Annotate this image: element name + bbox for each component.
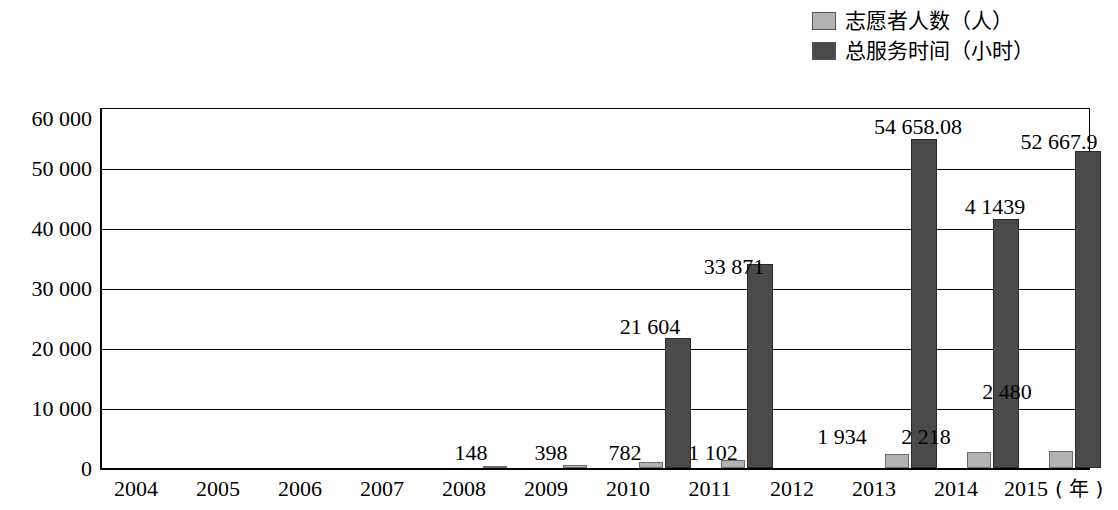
bar-hours-2015 — [1075, 151, 1101, 468]
datalabel-volunteers-2013: 1 934 — [800, 426, 884, 448]
x-axis-tick-2008: 2008 — [423, 478, 505, 500]
legend-item-volunteers: 志愿者人数（人） — [812, 8, 1034, 34]
gridline-30000 — [102, 289, 1089, 290]
gridline-20000 — [102, 229, 1089, 230]
legend-swatch-volunteers — [812, 12, 836, 30]
legend-label-volunteers: 志愿者人数（人） — [845, 11, 1013, 32]
x-axis-tick-2010: 2010 — [587, 478, 669, 500]
x-axis-tick-2011: 2011 — [669, 478, 751, 500]
y-axis-tick-0: 0 — [81, 458, 92, 480]
bar-hours-2013 — [911, 139, 937, 468]
y-axis-tick-50000: 50 000 — [32, 158, 93, 180]
datalabel-volunteers-2010: 782 — [595, 442, 655, 464]
datalabel-hours-2014: 4 1439 — [940, 196, 1050, 218]
y-axis-tick-20000: 20 000 — [32, 338, 93, 360]
legend-swatch-hours — [812, 42, 836, 60]
datalabel-volunteers-2014: 2 218 — [884, 426, 968, 448]
legend-item-hours: 总服务时间（小时） — [812, 38, 1034, 64]
gridline-40000 — [102, 349, 1089, 350]
y-axis-tick-10000: 10 000 — [32, 398, 93, 420]
datalabel-hours-2011: 33 871 — [684, 256, 784, 278]
datalabel-volunteers-2011: 1 102 — [671, 442, 755, 464]
y-axis-tick-30000: 30 000 — [32, 278, 93, 300]
datalabel-hours-2013: 54 658.08 — [843, 116, 993, 138]
bar-volunteers-2015 — [1049, 451, 1073, 468]
x-axis-unit-label: ( 年 ) — [1055, 478, 1103, 500]
chart-legend: 志愿者人数（人） 总服务时间（小时） — [812, 8, 1034, 64]
gridline-10000 — [102, 169, 1089, 170]
bar-volunteers-2013 — [885, 454, 909, 468]
datalabel-volunteers-2009: 398 — [521, 442, 581, 464]
x-axis-tick-2006: 2006 — [259, 478, 341, 500]
bar-volunteers-2014 — [967, 452, 991, 468]
x-axis-tick-2005: 2005 — [177, 478, 259, 500]
legend-label-hours: 总服务时间（小时） — [845, 41, 1034, 62]
gridline-50000 — [102, 409, 1089, 410]
x-axis-tick-2004: 2004 — [95, 478, 177, 500]
bar-volunteers-2008 — [483, 466, 507, 468]
x-axis-tick-2012: 2012 — [751, 478, 833, 500]
datalabel-volunteers-2015: 2 480 — [965, 381, 1049, 403]
x-axis-tick-2009: 2009 — [505, 478, 587, 500]
bar-hours-2011 — [747, 264, 773, 468]
bar-hours-2014 — [993, 219, 1019, 468]
x-axis-tick-2007: 2007 — [341, 478, 423, 500]
y-axis-tick-60000: 60 000 — [32, 108, 93, 130]
x-axis-tick-2013: 2013 — [833, 478, 915, 500]
volunteer-statistics-chart: 志愿者人数（人） 总服务时间（小时） 0 10 000 20 000 30 00… — [0, 0, 1118, 510]
bar-volunteers-2009 — [563, 465, 587, 468]
datalabel-hours-2015: 52 667.9 — [1000, 131, 1118, 153]
datalabel-hours-2010: 21 604 — [600, 316, 700, 338]
plot-area — [100, 108, 1090, 470]
datalabel-volunteers-2008: 148 — [441, 442, 501, 464]
y-axis-tick-40000: 40 000 — [32, 218, 93, 240]
